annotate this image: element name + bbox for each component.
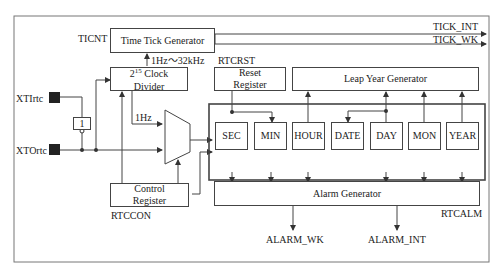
leap-year-generator-label: Leap Year Generator [344,73,427,85]
clock-divider: 215 Clock Divider [110,67,188,91]
register-mon-label: MON [413,130,436,142]
time-tick-generator-label: Time Tick Generator [121,35,205,47]
control-register-line2: Register [133,195,166,207]
alarm-int-label: ALARM_INT [368,234,426,245]
alarm-generator: Alarm Generator [214,181,480,206]
register-date: DATE [331,122,364,150]
control-register: Control Register [110,183,189,207]
rtcrst-label: RTCRST [218,55,255,66]
reset-register-line1: Reset [239,67,261,79]
register-sec: SEC [215,122,248,150]
xtortc-pin-icon [49,144,60,155]
alarm-generator-label: Alarm Generator [313,188,381,200]
register-mon: MON [408,122,441,150]
register-min: MIN [254,122,287,150]
clock-divider-line2: Divider [134,81,165,93]
rtcalm-label: RTCALM [441,208,482,219]
register-year-label: YEAR [449,130,476,142]
reset-register-line2: Register [233,79,266,91]
register-day-label: DAY [376,130,397,142]
register-sec-label: SEC [222,130,240,142]
inverter: 1 [73,117,91,130]
register-min-label: MIN [261,130,280,142]
tick-wk-label: TICK_WK [433,34,478,45]
register-year: YEAR [446,122,479,150]
rtccon-label: RTCCON [111,210,151,221]
one-hz-label: 1Hz [135,112,152,123]
leap-year-generator: Leap Year Generator [292,67,479,91]
register-date-label: DATE [335,130,361,142]
control-register-line1: Control [134,183,165,195]
register-hour: HOUR [292,122,325,150]
reset-register: Reset Register [214,67,286,91]
xtirtc-label: XTIrtc [16,93,43,104]
alarm-wk-label: ALARM_WK [266,234,324,245]
time-tick-generator: Time Tick Generator [110,28,215,53]
clock-divider-exp: 15 [135,67,142,75]
register-day: DAY [370,122,403,150]
inverter-label: 1 [80,118,85,130]
ticnt-label: TICNT [78,33,107,44]
xtirtc-pin-icon [49,92,60,103]
register-hour-label: HOUR [294,130,322,142]
clock-divider-rest: Clock [142,69,168,80]
tick-int-label: TICK_INT [433,21,478,32]
xtortc-label: XTOrtc [16,145,47,156]
freq-range-label: 1Hz～32kHz [151,55,204,66]
clock-divider-title: 215 Clock [130,65,168,80]
